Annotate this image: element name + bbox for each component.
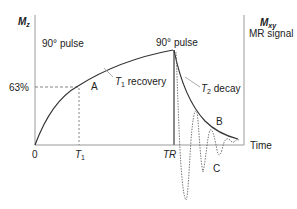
origin-label: 0 (32, 149, 38, 160)
mz-axis-label: Mz (18, 16, 30, 28)
mr-signal-caption: MR signal (249, 28, 293, 39)
point-c-label: C (213, 163, 220, 174)
sixty-three-percent-label: 63% (9, 82, 29, 93)
point-a-label: A (91, 81, 98, 92)
t1-recovery-label: T1 recovery (115, 76, 166, 88)
t1-recovery-curve (35, 50, 173, 145)
t2-decay-leader (185, 77, 200, 87)
fid-oscillation-curve (176, 52, 239, 200)
t1-axis-label: T1 (75, 149, 85, 161)
point-b-label: B (216, 116, 223, 127)
tr-axis-label: TR (163, 149, 176, 160)
pulse-label-left: 90° pulse (42, 38, 84, 49)
mr-relaxation-diagram: Mz Mxy MR signal 90° pulse 90° pulse 63%… (0, 0, 297, 209)
time-axis-label: Time (250, 140, 272, 151)
t2-decay-label: T2 decay (201, 83, 240, 95)
pulse-label-right: 90° pulse (156, 37, 198, 48)
t2-decay-curve (174, 50, 238, 139)
